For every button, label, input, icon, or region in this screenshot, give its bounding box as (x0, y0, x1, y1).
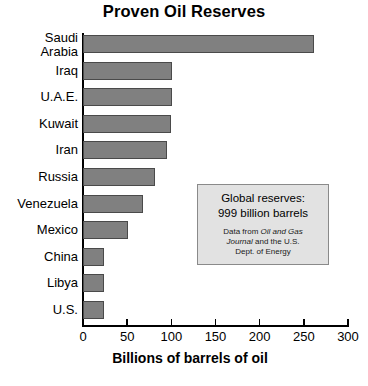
x-axis-tick (303, 319, 305, 326)
category-label: Kuwait (0, 117, 78, 131)
bar-row (83, 35, 348, 53)
annotation-headline-line2: 999 billion barrels (202, 206, 324, 221)
annotation-source-italic1: Oil and Gas (261, 227, 303, 236)
bar-row (83, 115, 348, 133)
bar-row (83, 274, 348, 292)
bar-row (83, 88, 348, 106)
x-axis-tick (126, 319, 128, 326)
annotation-source-part1: Data from (223, 227, 260, 236)
global-reserves-annotation: Global reserves: 999 billion barrels Dat… (197, 184, 329, 265)
bar (83, 195, 143, 213)
x-axis-tick-label: 150 (191, 329, 241, 344)
bar-row (83, 141, 348, 159)
x-axis-tick (347, 319, 349, 326)
category-label: U.S. (0, 303, 78, 317)
bar (83, 115, 171, 133)
proven-oil-reserves-chart: Proven Oil Reserves SaudiArabiaIraqU.A.E… (0, 0, 368, 386)
x-axis-tick-label: 50 (102, 329, 152, 344)
x-axis-tick (82, 319, 84, 326)
category-label: U.A.E. (0, 90, 78, 104)
chart-title: Proven Oil Reserves (0, 2, 368, 21)
annotation-source: Data from Oil and GasJournal and the U.S… (202, 227, 324, 257)
x-axis-title: Billions of barrels of oil (40, 350, 340, 366)
x-axis-tick-label: 300 (323, 329, 368, 344)
bar-row (83, 62, 348, 80)
category-label: Venezuela (0, 197, 78, 211)
category-label: SaudiArabia (0, 31, 78, 58)
x-axis-tick (215, 319, 217, 326)
category-label: China (0, 250, 78, 264)
annotation-headline-line1: Global reserves: (202, 191, 324, 206)
annotation-source-part2: and the U.S. (253, 237, 300, 246)
bar (83, 141, 167, 159)
annotation-source-part3: Dept. of Energy (235, 247, 291, 256)
bar (83, 35, 314, 53)
x-axis-tick-label: 100 (146, 329, 196, 344)
annotation-source-italic2: Journal (227, 237, 253, 246)
category-label-line2: Arabia (0, 45, 78, 59)
bar-row (83, 301, 348, 319)
category-label-line1: Saudi (0, 31, 78, 45)
category-label: Russia (0, 170, 78, 184)
category-label: Libya (0, 276, 78, 290)
bar (83, 301, 104, 319)
x-axis-tick-label: 200 (235, 329, 285, 344)
annotation-headline: Global reserves: 999 billion barrels (202, 191, 324, 221)
category-label: Iraq (0, 64, 78, 78)
bar (83, 62, 172, 80)
bar (83, 88, 172, 106)
x-axis-tick-label: 250 (279, 329, 329, 344)
bar (83, 168, 155, 186)
x-axis-tick (259, 319, 261, 326)
bar (83, 248, 104, 266)
category-label: Iran (0, 143, 78, 157)
x-axis-tick (171, 319, 173, 326)
category-label: Mexico (0, 223, 78, 237)
bar (83, 221, 128, 239)
bar (83, 274, 104, 292)
x-axis-tick-label: 0 (58, 329, 108, 344)
